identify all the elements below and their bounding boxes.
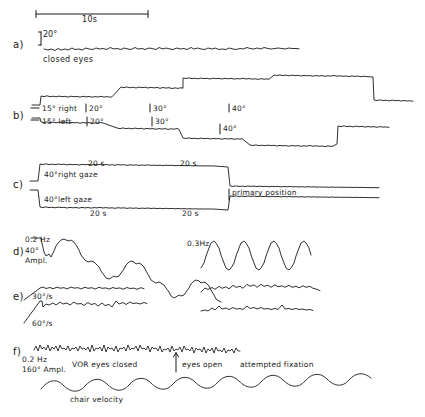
panel-d-trace (31, 238, 311, 302)
panel-c-upper-duration-2: 20 s (180, 160, 197, 168)
panel-d-amplitude-word: Ampl. (25, 257, 48, 265)
panel-c-lower-duration-2: 20 s (182, 210, 199, 218)
panel-b-lower-step-4: 40° (223, 125, 237, 133)
panel-d-frequency-right: 0.3Hz (187, 240, 210, 248)
panel-d-amplitude-deg: 40° (25, 247, 39, 255)
panel-f-id: f) (13, 347, 21, 357)
panel-b-lower-step-1: 15° left (42, 118, 71, 126)
panel-b-upper-step-1: 15° right (42, 105, 77, 113)
panel-c-id: c) (13, 180, 23, 190)
panel-e-upper-velocity-label: 30°/s (32, 293, 53, 301)
panel-f-vor-trace (34, 345, 240, 353)
panel-a-id: a) (13, 40, 24, 50)
panel-b-upper-step-3: 30° (153, 105, 167, 113)
eye-movement-figure: 10s a) 20° closed eyes b) 15° right 20° … (0, 0, 425, 417)
panel-b-upper-step-4: 40° (232, 105, 246, 113)
panel-a-caption: closed eyes (43, 56, 93, 64)
panel-f-chair-velocity-label: chair velocity (70, 396, 123, 404)
panel-e-lower-trace (24, 301, 313, 323)
panel-f-frequency: 0.2 Hz (22, 356, 47, 364)
panel-f-eyes-open-arrow (174, 353, 179, 373)
panel-c-primary-position-label: primary position (232, 189, 297, 197)
panel-d-id: d) (13, 247, 24, 257)
panel-c-lower-duration-1: 20 s (90, 210, 107, 218)
panel-d-frequency-left: 0.2 Hz (25, 236, 50, 244)
panel-a-amplitude-label: 20° (43, 31, 57, 39)
panel-b-upper-trace (32, 75, 413, 105)
panel-c-lower-gaze-label: 40°left gaze (44, 196, 92, 204)
panel-f-amplitude: 160° Ampl. (22, 366, 66, 374)
panel-a-trace (44, 48, 299, 51)
panel-e-id: e) (13, 292, 24, 302)
panel-f-segment-3-label: attempted fixation (240, 361, 314, 369)
panel-f-segment-1-label: VOR eyes closed (72, 361, 138, 369)
panel-b-lower-trace (32, 118, 389, 147)
panel-f-segment-2-label: eyes open (182, 361, 222, 369)
time-scalebar-label: 10s (82, 16, 97, 24)
panel-b-upper-step-2: 20° (89, 105, 103, 113)
panel-c-upper-duration-1: 20 s (88, 160, 105, 168)
panel-b-lower-step-2: 20° (90, 118, 104, 126)
panel-e-lower-velocity-label: 60°/s (32, 320, 53, 328)
panel-b-id: b) (13, 111, 24, 121)
panel-c-upper-gaze-label: 40°right gaze (44, 171, 98, 179)
panel-b-lower-step-3: 30° (155, 118, 169, 126)
panel-f-chair-velocity-trace (41, 374, 371, 391)
panel-e-upper-trace (24, 284, 320, 300)
panel-a-amplitude-bracket (39, 32, 42, 45)
